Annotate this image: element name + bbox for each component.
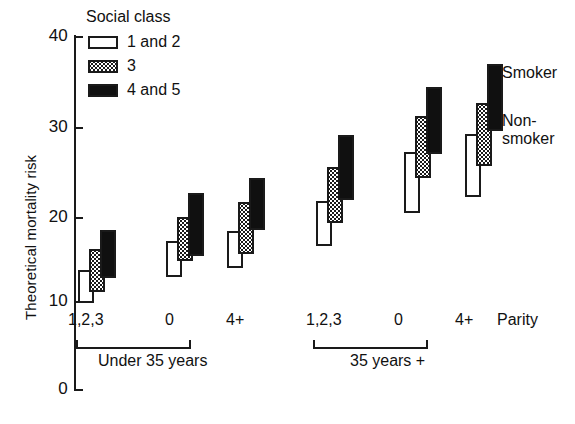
cat-label-g1-c1: 1,2,3 <box>68 311 104 329</box>
y-tick-label-40: 40 <box>28 26 68 46</box>
cat-label-g1-c2: 0 <box>165 311 174 329</box>
legend-label-1-and-2: 1 and 2 <box>127 33 180 51</box>
smoker-annotation: Smoker <box>502 64 557 82</box>
y-tick-label-20: 20 <box>28 207 68 227</box>
group-bracket-under-35 <box>76 338 191 349</box>
group-label-35-plus: 35 years + <box>350 352 425 370</box>
y-tick-20 <box>74 217 83 219</box>
bar-g1-p3-class-4-and-5 <box>249 178 265 230</box>
mortality-risk-chart: Theoretical mortality risk 40 30 20 10 0… <box>0 0 575 424</box>
legend-swatch-3 <box>88 60 118 73</box>
cat-label-g2-c1: 1,2,3 <box>306 311 342 329</box>
y-tick-0 <box>74 389 83 391</box>
legend-swatch-4-and-5 <box>88 84 118 97</box>
y-tick-30 <box>74 127 83 129</box>
bar-g2-p2-class-4-and-5 <box>426 87 442 153</box>
bar-g2-p3-class-4-and-5 <box>487 64 503 130</box>
group-bracket-35-plus <box>313 338 428 349</box>
group-label-under-35: Under 35 years <box>98 352 207 370</box>
legend-entry-3[interactable]: 3 <box>88 57 136 75</box>
y-tick-label-30: 30 <box>28 117 68 137</box>
legend-entry-4-and-5[interactable]: 4 and 5 <box>88 81 180 99</box>
cat-label-g1-c3: 4+ <box>226 311 244 329</box>
legend-label-3: 3 <box>127 57 136 75</box>
nonsmoker-annotation-line2: smoker <box>502 130 554 147</box>
bar-g1-p2-class-4-and-5 <box>188 193 204 257</box>
legend-label-4-and-5: 4 and 5 <box>127 81 180 99</box>
nonsmoker-annotation: Non- smoker <box>502 112 554 148</box>
legend-swatch-1-and-2 <box>88 36 118 49</box>
bar-g2-p1-class-4-and-5 <box>338 135 354 200</box>
y-tick-label-0: 0 <box>28 379 68 399</box>
y-tick-40 <box>74 36 83 38</box>
legend-title: Social class <box>86 8 170 26</box>
nonsmoker-annotation-line1: Non- <box>502 112 537 129</box>
y-tick-label-10: 10 <box>28 291 68 311</box>
x-axis-title: Parity <box>497 311 538 329</box>
bar-g1-p1-class-4-and-5 <box>100 230 116 279</box>
legend-entry-1-and-2[interactable]: 1 and 2 <box>88 33 180 51</box>
cat-label-g2-c3: 4+ <box>455 311 473 329</box>
cat-label-g2-c2: 0 <box>394 311 403 329</box>
